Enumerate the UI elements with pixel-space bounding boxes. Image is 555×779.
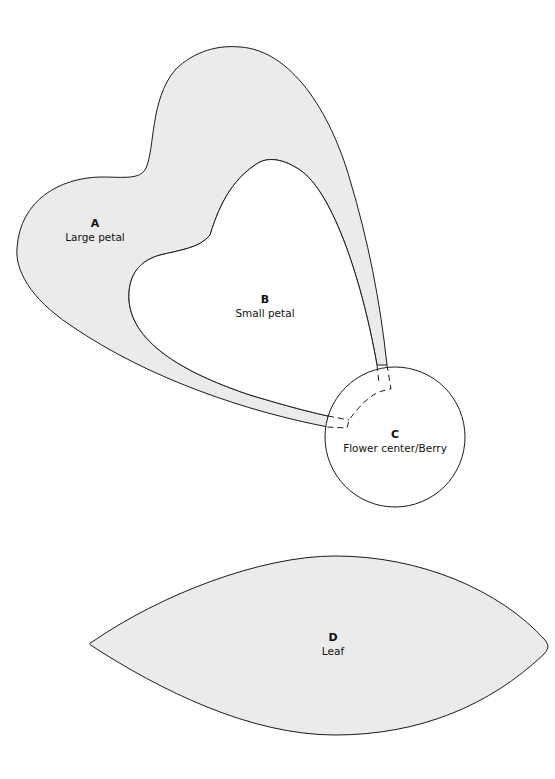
piece-name: Small petal [235, 308, 294, 319]
leaf-shape [90, 556, 548, 735]
piece-letter: B [235, 294, 294, 305]
piece-name: Large petal [65, 232, 124, 243]
piece-letter: A [65, 218, 124, 229]
label-leaf: D Leaf [322, 632, 344, 657]
piece-letter: C [343, 429, 447, 440]
piece-letter: D [322, 632, 344, 643]
label-flower-center: C Flower center/Berry [343, 429, 447, 454]
label-large-petal: A Large petal [65, 218, 124, 243]
piece-name: Leaf [322, 646, 344, 657]
template-drawing [0, 0, 555, 779]
label-small-petal: B Small petal [235, 294, 294, 319]
piece-name: Flower center/Berry [343, 443, 447, 454]
